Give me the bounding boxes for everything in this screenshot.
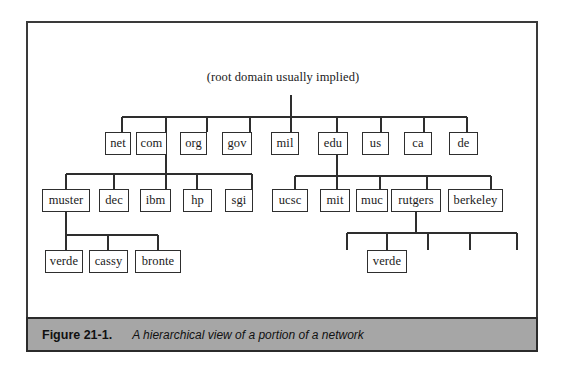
node-com[interactable]: com [136,132,167,155]
node-net[interactable]: net [105,132,131,155]
node-berkeley[interactable]: berkeley [448,189,503,212]
node-edu[interactable]: edu [318,132,348,155]
node-bronte[interactable]: bronte [135,250,181,273]
caption-figure-number: Figure 21-1. [42,328,112,342]
node-muc[interactable]: muc [356,189,388,212]
figure-container: (root domain usually implied) [0,0,566,368]
node-rutgers[interactable]: rutgers [391,189,441,212]
node-dec[interactable]: dec [99,189,129,212]
node-verde-muster[interactable]: verde [45,250,83,273]
node-cassy[interactable]: cassy [89,250,128,273]
node-ibm[interactable]: ibm [140,189,171,212]
node-ucsc[interactable]: ucsc [272,189,308,212]
node-de[interactable]: de [449,132,478,155]
node-sgi[interactable]: sgi [225,189,253,212]
figure-caption-bar: Figure 21-1. A hierarchical view of a po… [26,317,538,352]
node-org[interactable]: org [180,132,207,155]
node-mil[interactable]: mil [271,132,299,155]
node-verde-rutgers[interactable]: verde [367,250,407,273]
node-ca[interactable]: ca [404,132,432,155]
tree-connector-lines [0,0,566,368]
node-gov[interactable]: gov [222,132,252,155]
node-mit[interactable]: mit [320,189,350,212]
node-us[interactable]: us [362,132,389,155]
caption-figure-title: A hierarchical view of a portion of a ne… [132,328,364,342]
node-muster[interactable]: muster [42,189,90,212]
node-hp[interactable]: hp [183,189,212,212]
